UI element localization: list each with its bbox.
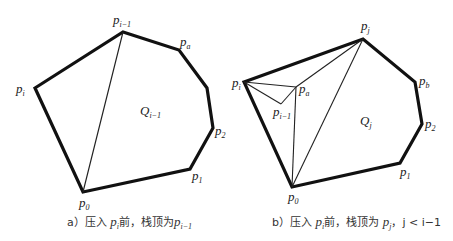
caption-a-middle: 前，栈顶为 <box>119 216 174 229</box>
figure-b: pi pj pa pi−1 pb p2 p1 p0 Qj <box>231 18 436 206</box>
segment-pa-p0 <box>292 87 296 187</box>
caption-a-top-sub: i−1 <box>180 222 192 231</box>
diagonal-p0-pim1 <box>83 32 123 192</box>
caption-b: b）压入 pi前，栈顶为 pj，j < i−1 <box>272 213 441 231</box>
segment-pa-pj <box>296 39 363 87</box>
caption-a: a）压入 pi前，栈顶为pi−1 <box>67 213 192 231</box>
label-p-2: p2 <box>424 116 436 133</box>
convex-hull-diagram: pi pi−1 pa p2 p1 p0 Qi−1 pi pj pa pi−1 p… <box>0 0 453 241</box>
label-p-i: pi <box>231 75 241 92</box>
label-region-q: Qi−1 <box>140 103 161 120</box>
figure-a: pi pi−1 pa p2 p1 p0 Qi−1 <box>15 12 226 212</box>
caption-b-condition: ，j < i−1 <box>391 216 441 229</box>
caption-a-prefix: a）压入 <box>67 216 110 229</box>
hull-b-polygon <box>244 39 422 187</box>
label-p-j: pj <box>360 18 371 35</box>
label-p-a: pa <box>298 81 310 98</box>
label-p-im1: pi−1 <box>112 12 131 29</box>
segment-pim1-pa <box>281 87 296 104</box>
label-p-a: pa <box>179 34 191 51</box>
label-p-0: p0 <box>287 189 299 206</box>
label-p-0: p0 <box>78 195 90 212</box>
label-p-b: pb <box>418 73 430 90</box>
caption-b-middle: 前，栈顶为 <box>324 216 383 229</box>
caption-b-prefix: b）压入 <box>272 216 315 229</box>
label-p-1: p1 <box>399 164 411 181</box>
hull-a-polygon <box>35 32 213 192</box>
label-p-i: pi <box>15 81 25 98</box>
label-p-1: p1 <box>191 168 203 185</box>
label-p-im1: pi−1 <box>272 104 291 121</box>
label-region-q: Qj <box>360 113 372 130</box>
label-p-2: p2 <box>214 123 226 140</box>
